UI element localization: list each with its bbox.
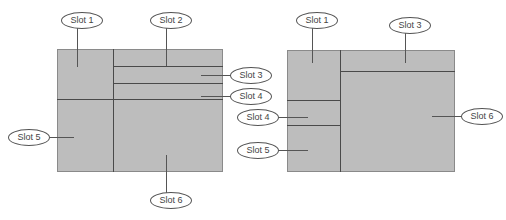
slot-label-slot-4: Slot 4 [230,88,272,105]
leader-line [46,137,74,138]
leader-line [166,28,167,66]
layout-a-divider-slot2-slot3 [113,66,223,67]
leader-line [312,28,313,63]
layout-b-vertical-divider [340,50,341,172]
leader-line [405,33,406,63]
slot-label-slot-6: Slot 6 [150,192,192,209]
layout-a-divider-top-bottom [57,99,223,100]
slot-label-slot-6: Slot 6 [461,108,503,125]
slot-label-slot-5: Slot 5 [8,129,50,146]
diagram-stage: Slot 1 Slot 2 Slot 3 Slot 4 Slot 5 Slot … [0,0,506,220]
slot-label-slot-1: Slot 1 [61,12,103,29]
layout-a-frame [57,49,223,172]
leader-line [274,150,308,151]
leader-line [201,75,232,76]
leader-line [432,116,462,117]
layout-b-divider-slot4-slot5 [287,125,340,126]
layout-b-divider-slot3-slot6 [340,71,455,72]
leader-line [166,155,167,193]
leader-line [201,96,232,97]
slot-label-slot-3: Slot 3 [230,67,272,84]
layout-a-divider-slot3-slot4 [113,83,223,84]
slot-label-slot-3: Slot 3 [389,17,431,34]
slot-label-slot-5: Slot 5 [237,142,279,159]
slot-label-slot-2: Slot 2 [150,12,192,29]
leader-line [274,117,308,118]
slot-label-slot-1: Slot 1 [296,12,338,29]
layout-a-vertical-divider [113,49,114,172]
slot-label-slot-4: Slot 4 [237,109,279,126]
layout-b-frame [287,50,455,172]
leader-line [77,28,78,67]
layout-b-divider-slot1-slot4 [287,100,340,101]
